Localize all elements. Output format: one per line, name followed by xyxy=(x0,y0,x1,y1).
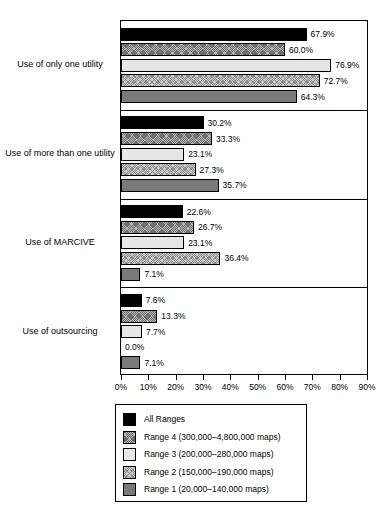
x-axis-tick xyxy=(230,375,231,380)
legend-item[interactable]: Range 4 (300,000–4,800,000 maps) xyxy=(123,431,281,444)
bar[interactable] xyxy=(121,132,212,145)
bar[interactable] xyxy=(121,221,194,234)
bar-value-label: 13.3% xyxy=(161,312,185,321)
bar-value-label: 7.7% xyxy=(146,327,165,336)
legend-item[interactable]: Range 3 (200,000–280,000 maps) xyxy=(123,448,273,461)
legend-item[interactable]: All Ranges xyxy=(123,413,185,426)
bar[interactable] xyxy=(121,163,196,176)
category-label: Use of more than one utility xyxy=(4,148,116,159)
bar-row: 67.9% xyxy=(121,28,367,41)
bar-value-label: 33.3% xyxy=(216,134,240,143)
x-axis-tick-label: 30% xyxy=(194,382,211,392)
x-axis-tick xyxy=(121,375,122,380)
bar[interactable] xyxy=(121,356,140,369)
bar-row: 7.7% xyxy=(121,325,367,338)
bar-value-label: 60.0% xyxy=(289,46,313,55)
legend-item[interactable]: Range 1 (20,000–140,000 maps) xyxy=(123,483,269,496)
bar-value-label: 23.1% xyxy=(188,150,212,159)
bar[interactable] xyxy=(121,325,142,338)
legend-label: Range 3 (200,000–280,000 maps) xyxy=(144,450,273,459)
bar-value-label: 23.1% xyxy=(188,239,212,248)
x-axis-tick-label: 50% xyxy=(249,382,266,392)
bar-chart: Use of only one utilityUse of more than … xyxy=(0,0,390,524)
bar-value-label: 30.2% xyxy=(208,119,232,128)
bar-value-label: 67.9% xyxy=(311,30,335,39)
x-axis-tick xyxy=(340,375,341,380)
bar-row: 13.3% xyxy=(121,310,367,323)
bar-row: 64.3% xyxy=(121,90,367,103)
bar[interactable] xyxy=(121,116,204,129)
bar-row: 60.0% xyxy=(121,43,367,56)
bar[interactable] xyxy=(121,310,157,323)
bar[interactable] xyxy=(121,268,140,281)
category-label: Use of only one utility xyxy=(4,59,116,70)
bar[interactable] xyxy=(121,74,320,87)
x-axis-tick-label: 90% xyxy=(358,382,375,392)
x-axis-tick xyxy=(176,375,177,380)
x-axis-tick-label: 70% xyxy=(304,382,321,392)
bar-value-label: 72.7% xyxy=(324,77,348,86)
bar-value-label: 36.4% xyxy=(224,254,248,263)
bar-row: 72.7% xyxy=(121,74,367,87)
x-axis-tick-label: 40% xyxy=(222,382,239,392)
bar-row: 22.6% xyxy=(121,205,367,218)
x-axis-tick xyxy=(285,375,286,380)
bar-value-label: 7.1% xyxy=(144,359,163,368)
bar-row: 7.6% xyxy=(121,294,367,307)
x-axis-tick xyxy=(148,375,149,380)
bar-value-label: 64.3% xyxy=(301,92,325,101)
bar-value-label: 7.1% xyxy=(144,270,163,279)
x-axis-tick-label: 80% xyxy=(331,382,348,392)
legend-swatch-icon xyxy=(123,431,136,444)
legend-label: Range 1 (20,000–140,000 maps) xyxy=(144,485,269,494)
bar[interactable] xyxy=(121,28,307,41)
bar-row: 23.1% xyxy=(121,236,367,249)
legend-label: All Ranges xyxy=(144,415,185,424)
bar-row: 26.7% xyxy=(121,221,367,234)
bar-group: 7.6%13.3%7.7%0.0%7.1% xyxy=(121,287,367,376)
plot-area: 67.9%60.0%76.9%72.7%64.3%30.2%33.3%23.1%… xyxy=(120,20,368,375)
bar-value-label: 7.6% xyxy=(146,296,165,305)
x-axis-tick-label: 20% xyxy=(167,382,184,392)
bar[interactable] xyxy=(121,236,184,249)
category-label: Use of MARCIVE xyxy=(4,236,116,247)
bar-value-label: 76.9% xyxy=(335,61,359,70)
x-axis-tick xyxy=(203,375,204,380)
legend-swatch-icon xyxy=(123,483,136,496)
bar[interactable] xyxy=(121,90,297,103)
bar-row: 27.3% xyxy=(121,163,367,176)
bar-row: 33.3% xyxy=(121,132,367,145)
bar[interactable] xyxy=(121,252,220,265)
bar[interactable] xyxy=(121,179,219,192)
x-axis-tick-label: 0% xyxy=(115,382,127,392)
legend-label: Range 4 (300,000–4,800,000 maps) xyxy=(144,433,281,442)
bar-row: 30.2% xyxy=(121,116,367,129)
bar-value-label: 0.0% xyxy=(125,343,144,352)
bar[interactable] xyxy=(121,59,331,72)
bar[interactable] xyxy=(121,205,183,218)
legend-item[interactable]: Range 2 (150,000–190,000 maps) xyxy=(123,466,273,479)
x-axis-tick-label: 10% xyxy=(140,382,157,392)
bar-row: 0.0% xyxy=(121,341,367,354)
bar-value-label: 35.7% xyxy=(223,181,247,190)
chart-legend: All RangesRange 4 (300,000–4,800,000 map… xyxy=(115,404,307,502)
bar-value-label: 22.6% xyxy=(187,207,211,216)
bar-row: 7.1% xyxy=(121,356,367,369)
legend-label: Range 2 (150,000–190,000 maps) xyxy=(144,468,273,477)
bar-group: 22.6%26.7%23.1%36.4%7.1% xyxy=(121,199,367,288)
bar-row: 76.9% xyxy=(121,59,367,72)
x-axis-tick xyxy=(312,375,313,380)
bar-row: 7.1% xyxy=(121,268,367,281)
legend-swatch-icon xyxy=(123,413,136,426)
x-axis-tick xyxy=(367,375,368,380)
bar[interactable] xyxy=(121,148,184,161)
bar-value-label: 27.3% xyxy=(200,165,224,174)
x-axis-tick xyxy=(258,375,259,380)
bar-row: 35.7% xyxy=(121,179,367,192)
x-axis: 0%10%20%30%40%50%60%70%80%90% xyxy=(120,375,368,399)
bar[interactable] xyxy=(121,294,142,307)
bar-row: 36.4% xyxy=(121,252,367,265)
x-axis-tick-label: 60% xyxy=(276,382,293,392)
legend-swatch-icon xyxy=(123,466,136,479)
bar[interactable] xyxy=(121,43,285,56)
